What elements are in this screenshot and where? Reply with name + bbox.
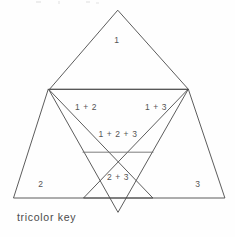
triangle-one-outline	[50, 11, 189, 90]
tricolor-key-diagram: 1 2 3 1 + 2 1 + 3 1 + 2 + 3 2 + 3 tricol…	[0, 0, 235, 237]
tricolor-key-figure: 1 2 3 1 + 2 1 + 3 1 + 2 + 3 2 + 3 tricol…	[0, 0, 235, 237]
region-label-2-plus-3: 2 + 3	[107, 172, 129, 182]
region-label-3: 3	[195, 179, 200, 189]
inverted-triangle-outline	[49, 89, 188, 212]
region-label-1-plus-2-plus-3: 1 + 2 + 3	[99, 129, 138, 139]
scan-artifact-row	[36, 1, 99, 4]
region-label-2: 2	[38, 179, 43, 189]
region-label-1-plus-3: 1 + 3	[145, 102, 167, 112]
region-label-1-plus-2: 1 + 2	[75, 102, 97, 112]
region-label-1: 1	[114, 35, 119, 45]
figure-caption: tricolor key	[17, 211, 76, 223]
